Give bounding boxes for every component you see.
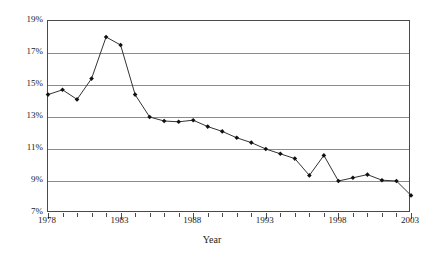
data-point	[104, 35, 109, 40]
y-axis-tick-label: 15%	[3, 79, 43, 88]
data-point	[365, 172, 370, 177]
y-axis-tick-label: 13%	[3, 111, 43, 120]
data-point	[162, 119, 167, 124]
x-axis-tick-label: 2003	[401, 215, 419, 226]
data-point	[46, 92, 51, 97]
data-series-line	[48, 21, 411, 213]
data-point	[278, 152, 283, 157]
x-axis-tick-label: 1993	[256, 215, 274, 226]
data-point	[264, 147, 269, 152]
x-axis-tick-label: 1983	[111, 215, 129, 226]
data-point	[249, 140, 254, 145]
data-point	[234, 136, 239, 141]
x-axis-title: Year	[0, 234, 424, 246]
y-axis-tick-label: 7%	[3, 207, 43, 216]
data-point	[205, 124, 210, 129]
data-point	[351, 176, 356, 181]
y-axis-labels: 7%9%11%13%15%17%19%	[0, 20, 43, 212]
y-axis-tick-label: 17%	[3, 47, 43, 56]
data-point	[176, 120, 181, 125]
y-axis-tick-label: 11%	[3, 143, 43, 152]
series-markers	[46, 35, 414, 198]
data-point	[118, 43, 123, 48]
line-chart: 7%9%11%13%15%17%19% 19781983198819931998…	[0, 0, 424, 259]
y-axis-tick-label: 9%	[3, 175, 43, 184]
data-point	[380, 178, 385, 183]
x-axis-labels: 197819831988199319982003	[47, 215, 410, 229]
data-point	[220, 129, 225, 134]
data-point	[336, 179, 341, 184]
x-axis-tick-label: 1988	[183, 215, 201, 226]
data-point	[191, 118, 196, 123]
x-axis-tick-label: 1998	[328, 215, 346, 226]
series-polyline	[48, 37, 411, 195]
y-axis-tick-label: 19%	[3, 15, 43, 24]
x-axis-tick-label: 1978	[38, 215, 56, 226]
plot-area	[47, 20, 410, 212]
